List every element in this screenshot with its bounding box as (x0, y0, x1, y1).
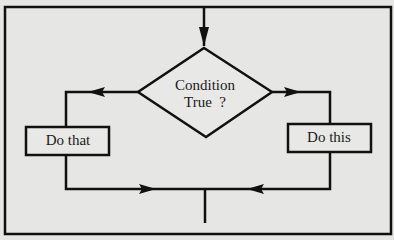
condition-label-line1: Condition (160, 77, 250, 94)
left-branch-line (66, 92, 138, 127)
flowchart-canvas: Condition True ? Do that Do this (0, 0, 394, 240)
right-branch-line (272, 92, 330, 124)
do-this-label: Do this (289, 130, 369, 145)
left-merge-line (66, 155, 205, 189)
do-that-label: Do that (28, 133, 108, 148)
condition-label: Condition True ? (160, 77, 250, 111)
right-merge-line (205, 152, 330, 189)
flowchart-svg (0, 0, 394, 240)
entry-arrowhead-icon (199, 27, 209, 46)
condition-label-line2: True ? (160, 94, 250, 111)
